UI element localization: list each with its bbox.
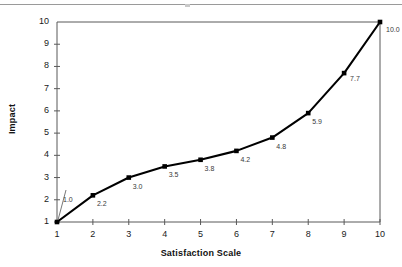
data-point-label: 4.8 bbox=[276, 143, 286, 150]
x-axis-tick-label: 9 bbox=[333, 229, 355, 239]
y-axis-tick-label: 9 bbox=[27, 38, 49, 48]
x-axis-tick-label: 3 bbox=[118, 229, 140, 239]
data-point-label: 3.8 bbox=[205, 165, 215, 172]
x-axis-tick-label: 7 bbox=[261, 229, 283, 239]
x-axis-tick-label: 5 bbox=[190, 229, 212, 239]
y-axis-title: Impact bbox=[7, 89, 17, 149]
x-axis-tick-label: 2 bbox=[82, 229, 104, 239]
y-axis-tick-label: 3 bbox=[27, 172, 49, 182]
data-point-label: 3.0 bbox=[133, 183, 143, 190]
plot-canvas bbox=[0, 0, 402, 267]
data-point-marker bbox=[198, 157, 203, 162]
data-point-label: 10.0 bbox=[386, 26, 400, 33]
series-line-impact bbox=[57, 22, 380, 222]
data-point-marker bbox=[162, 164, 167, 169]
data-point-label: 3.5 bbox=[169, 171, 179, 178]
y-axis-tick-label: 8 bbox=[27, 60, 49, 70]
y-axis-tick-label: 7 bbox=[27, 83, 49, 93]
y-axis-tick-label: 4 bbox=[27, 149, 49, 159]
data-point-marker bbox=[270, 135, 275, 140]
data-point-marker bbox=[126, 175, 131, 180]
x-axis-tick-label: 10 bbox=[369, 229, 391, 239]
data-point-marker bbox=[378, 20, 383, 25]
y-axis-tick-label: 1 bbox=[27, 216, 49, 226]
data-point-label: 7.7 bbox=[350, 75, 360, 82]
data-point-marker bbox=[306, 111, 311, 116]
x-axis-tick-label: 4 bbox=[154, 229, 176, 239]
data-point-marker bbox=[342, 71, 347, 76]
data-point-label: 5.9 bbox=[312, 118, 322, 125]
axes-group bbox=[54, 22, 380, 225]
data-series-line bbox=[57, 22, 380, 222]
data-point-marker bbox=[55, 220, 60, 225]
data-point-label: 4.2 bbox=[240, 156, 250, 163]
y-axis-tick-label: 5 bbox=[27, 127, 49, 137]
x-axis-tick-label: 8 bbox=[297, 229, 319, 239]
x-axis-tick-label: 1 bbox=[46, 229, 68, 239]
data-point-marker bbox=[91, 193, 96, 198]
x-axis-title: Satisfaction Scale bbox=[0, 248, 402, 258]
data-point-marker bbox=[234, 149, 239, 154]
impact-vs-satisfaction-line-chart: Impact Satisfaction Scale 12345678910 12… bbox=[0, 0, 402, 267]
data-point-label: 1.0 bbox=[63, 196, 73, 203]
y-axis-tick-label: 6 bbox=[27, 105, 49, 115]
data-point-label: 2.2 bbox=[97, 200, 107, 207]
x-axis-tick-label: 6 bbox=[225, 229, 247, 239]
y-axis-tick-label: 10 bbox=[27, 16, 49, 26]
data-point-markers bbox=[55, 20, 383, 225]
y-axis-tick-label: 2 bbox=[27, 194, 49, 204]
